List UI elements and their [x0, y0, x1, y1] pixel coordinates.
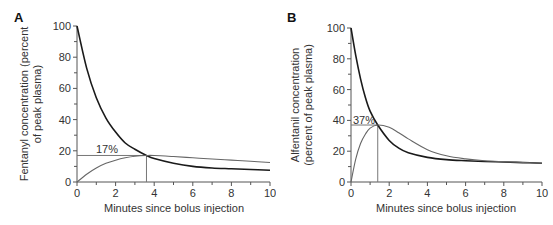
y-axis-title: Alfentanil concentration	[289, 48, 301, 162]
y-axis-title: of peak plasma)	[31, 65, 43, 143]
x-tick-label: 6	[190, 187, 196, 199]
x-axis-title: Minutes since bolus injection	[376, 202, 516, 214]
y-tick-label: 100	[327, 22, 345, 34]
x-tick-label: 8	[228, 187, 234, 199]
x-tick-label: 8	[501, 187, 507, 199]
y-tick-label: 100	[53, 20, 71, 32]
y-tick-label: 80	[59, 51, 71, 63]
panel-b: B 024681002040608010037% Alfentanil conc…	[276, 0, 553, 225]
x-tick-label: 2	[386, 187, 392, 199]
y-axis-title: (percent of peak plasma)	[302, 44, 314, 166]
y-tick-label: 0	[65, 176, 71, 188]
x-tick-label: 0	[74, 187, 80, 199]
x-tick-label: 0	[348, 187, 354, 199]
plasma-concentration-line	[351, 28, 542, 163]
effect-site-concentration-line	[351, 125, 542, 182]
y-axis-title: Fentanyl concentration (percent	[18, 27, 30, 182]
peak-annotation: 17%	[96, 143, 118, 155]
panel-a: A 024681002040608010017% Fentanyl concen…	[0, 0, 276, 225]
y-tick-label: 40	[59, 114, 71, 126]
y-tick-label: 80	[333, 53, 345, 65]
y-tick-label: 40	[333, 114, 345, 126]
y-tick-label: 20	[59, 145, 71, 157]
chart-a: 024681002040608010017% Fentanyl concentr…	[0, 0, 276, 225]
x-tick-label: 4	[151, 187, 157, 199]
chart-b: 024681002040608010037% Alfentanil concen…	[276, 0, 553, 225]
peak-annotation: 37%	[353, 114, 375, 126]
y-tick-label: 20	[333, 145, 345, 157]
y-tick-label: 60	[59, 82, 71, 94]
x-tick-label: 10	[264, 187, 276, 199]
x-tick-label: 6	[463, 187, 469, 199]
y-tick-label: 0	[339, 176, 345, 188]
x-tick-label: 4	[424, 187, 430, 199]
x-axis-title: Minutes since bolus injection	[104, 202, 244, 214]
x-tick-label: 10	[536, 187, 548, 199]
y-tick-label: 60	[333, 84, 345, 96]
x-tick-label: 2	[113, 187, 119, 199]
